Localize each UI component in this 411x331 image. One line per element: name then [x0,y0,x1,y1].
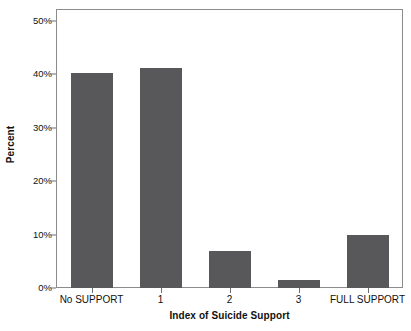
x-tick-mark [230,288,231,293]
bar [209,251,251,288]
y-tick-mark [50,234,56,235]
bar [347,235,389,288]
bars-layer [57,10,402,288]
x-tick-label: 1 [158,294,164,305]
y-tick-mark [50,21,56,22]
bar [71,73,113,288]
y-tick-mark [50,127,56,128]
x-tick-mark [92,288,93,293]
x-tick-mark [161,288,162,293]
x-tick-label: 3 [296,294,302,305]
bar [278,280,320,288]
bar [140,68,182,288]
x-axis-title: Index of Suicide Support [56,310,403,321]
x-tick-mark [299,288,300,293]
y-tick-label: 30% [18,123,52,133]
y-tick-label: 0% [18,283,52,293]
y-tick-mark [50,74,56,75]
y-axis-ticks: 0%10%20%30%40%50% [14,0,52,331]
x-tick-mark [368,288,369,293]
y-tick-label: 20% [18,176,52,186]
y-tick-label: 10% [18,230,52,240]
x-tick-label: No SUPPORT [60,294,124,305]
x-tick-label: FULL SUPPORT [330,294,405,305]
y-tick-mark [50,181,56,182]
y-tick-label: 50% [18,16,52,26]
y-tick-mark [50,288,56,289]
y-tick-label: 40% [18,70,52,80]
x-tick-label: 2 [227,294,233,305]
bar-chart: Percent 0%10%20%30%40%50% Index of Suici… [0,0,411,331]
